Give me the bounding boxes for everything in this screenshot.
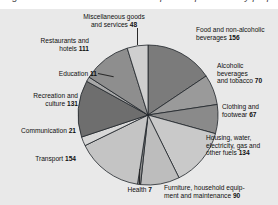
leader-line-health — [139, 169, 140, 184]
label-health-value: 7 — [148, 186, 152, 193]
label-education-text: Education — [59, 70, 90, 77]
label-alcohol-text: Alcoholic beverages and tobacco — [217, 62, 255, 84]
label-communication: Communication 21 — [0, 127, 76, 135]
chart-panel: Miscellaneous goods and services 48 Food… — [0, 9, 278, 205]
label-transport-text: Transport — [35, 155, 65, 162]
label-recreation-value: 131 — [67, 100, 78, 107]
label-health: Health 7 — [86, 186, 152, 194]
label-furniture-value: 90 — [233, 192, 240, 199]
leader-line-misc — [137, 28, 138, 45]
clipped-caption: Figure 3.2: Household final consumption … — [0, 0, 278, 9]
label-miscellaneous: Miscellaneous goods and services 48 — [62, 13, 166, 28]
pie-chart — [77, 44, 219, 186]
label-housing-value: 134 — [239, 149, 250, 156]
label-housing-text: Housing, water, electricity, gas and oth… — [206, 134, 260, 156]
label-clothing: Clothing and footwear 67 — [222, 103, 278, 118]
label-miscellaneous-value: 48 — [130, 21, 137, 28]
label-restaurants-value: 111 — [79, 45, 89, 52]
label-communication-text: Communication — [21, 127, 69, 134]
label-education-value: 11 — [90, 70, 97, 77]
clipped-caption-text: Figure 3.2: Household final consumption … — [4, 0, 278, 2]
label-recreation: Recreation and culture 131 — [0, 92, 78, 107]
pie-svg — [77, 44, 219, 186]
label-clothing-value: 67 — [249, 111, 256, 118]
label-health-text: Health — [127, 186, 148, 193]
label-housing: Housing, water, electricity, gas and oth… — [206, 134, 278, 157]
label-furniture: Furniture, household equip- ment and mai… — [164, 184, 278, 199]
label-alcohol: Alcoholic beverages and tobacco 70 — [217, 62, 278, 85]
label-restaurants: Restaurants and hotels 111 — [0, 37, 89, 52]
pie-slices — [78, 45, 218, 185]
label-communication-value: 21 — [69, 127, 76, 134]
label-education: Education 11 — [0, 70, 97, 78]
label-food-value: 156 — [229, 34, 240, 41]
chart-figure: Figure 3.2: Household final consumption … — [0, 0, 278, 205]
label-transport: Transport 154 — [0, 155, 76, 163]
label-food: Food and non-alcoholic beverages 156 — [196, 26, 278, 41]
label-alcohol-value: 70 — [255, 77, 262, 84]
label-transport-value: 154 — [65, 155, 76, 162]
